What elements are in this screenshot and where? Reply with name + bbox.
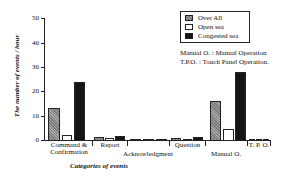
bar-congested-ack xyxy=(156,139,167,141)
legend-label: Open sea xyxy=(198,23,224,31)
y-tick-label: 50 xyxy=(28,14,39,22)
bar-overall-manual xyxy=(210,101,221,141)
legend-item: Open sea xyxy=(185,23,224,31)
y-axis-title: The number of events / hour xyxy=(13,21,21,131)
legend-item: Congested sea xyxy=(185,32,238,40)
bar-congested-manual xyxy=(235,72,246,141)
category-label: T. P. O. xyxy=(248,142,270,149)
category-label: Question xyxy=(170,142,205,149)
legend: Over All Open sea Congested sea xyxy=(180,11,250,43)
y-tick-label: 10 xyxy=(28,112,39,120)
bar-open-manual xyxy=(223,129,234,141)
bar-overall-command xyxy=(48,108,60,141)
category-divider xyxy=(127,140,128,146)
category-label: Acknowledgment xyxy=(118,151,178,158)
legend-swatch-overall xyxy=(185,15,193,21)
y-tick-label: 30 xyxy=(28,63,39,71)
legend-swatch-open xyxy=(185,24,193,30)
y-tick xyxy=(41,67,45,68)
category-label-line: Confirmation xyxy=(46,149,92,156)
legend-swatch-congested xyxy=(185,33,193,39)
y-axis xyxy=(44,18,45,141)
y-tick xyxy=(41,18,45,19)
category-label: Command & Confirmation xyxy=(46,142,92,156)
bar-open-ack xyxy=(143,139,154,141)
category-divider xyxy=(205,140,206,146)
annotation: Manual O. : Manual Operation xyxy=(180,49,267,57)
category-divider xyxy=(270,140,271,146)
bar-congested-command xyxy=(74,82,85,141)
annotation: T.P.O. : Touch Panel Operation. xyxy=(180,58,269,66)
x-axis-title: Categories of events xyxy=(70,162,128,170)
category-label: Manual O. xyxy=(205,151,247,158)
y-tick xyxy=(41,43,45,44)
bar-overall-ack xyxy=(130,139,141,141)
y-tick xyxy=(41,91,45,92)
y-tick-label: 20 xyxy=(28,87,39,95)
y-tick xyxy=(41,116,45,117)
category-label: Report xyxy=(93,142,127,149)
y-tick xyxy=(41,140,45,141)
legend-label: Congested sea xyxy=(198,32,238,40)
legend-label: Over All xyxy=(198,14,222,22)
y-tick-label: 40 xyxy=(28,39,39,47)
legend-item: Over All xyxy=(185,14,222,22)
y-tick-label: 0 xyxy=(28,136,39,144)
